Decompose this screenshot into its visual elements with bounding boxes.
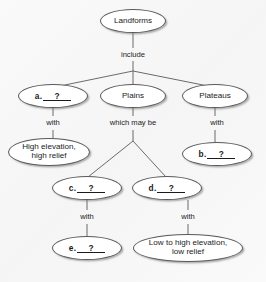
edge-label-with-plateaus: with bbox=[191, 118, 243, 127]
edge-label-with-a: with bbox=[27, 118, 79, 127]
node-blank-d-answer: ? bbox=[157, 184, 185, 193]
node-high-elevation-high-relief-label: High elevation, high relief bbox=[19, 143, 79, 160]
connector-fork2-to-c bbox=[88, 141, 133, 177]
node-blank-c-text: c.? bbox=[69, 183, 105, 193]
node-landforms-label: Landforms bbox=[111, 17, 155, 26]
node-landforms[interactable]: Landforms bbox=[100, 9, 166, 33]
node-blank-e-answer: ? bbox=[77, 244, 105, 253]
node-blank-a-answer: ? bbox=[43, 92, 71, 101]
node-blank-b-answer: ? bbox=[207, 150, 235, 159]
edge-label-with-c-text: with bbox=[80, 212, 94, 221]
edge-label-with-a-text: with bbox=[46, 118, 60, 127]
node-plains[interactable]: Plains bbox=[100, 84, 166, 108]
node-plains-label: Plains bbox=[119, 92, 147, 101]
node-low-to-high-elevation-low-relief[interactable]: Low to high elevation, low relief bbox=[133, 234, 243, 262]
edge-label-with-c: with bbox=[61, 212, 113, 221]
concept-map-canvas: Landforms a.? Plains Plateaus High eleva… bbox=[0, 0, 266, 282]
node-low-to-high-elevation-low-relief-label: Low to high elevation, low relief bbox=[146, 239, 230, 256]
node-blank-c[interactable]: c.? bbox=[52, 176, 122, 200]
node-blank-c-prefix: c. bbox=[69, 183, 76, 193]
edge-label-include-text: include bbox=[121, 50, 145, 59]
node-blank-b[interactable]: b.? bbox=[182, 142, 252, 166]
node-blank-e-prefix: e. bbox=[69, 243, 76, 253]
node-blank-a-prefix: a. bbox=[35, 91, 42, 101]
edge-label-with-plateaus-text: with bbox=[210, 118, 224, 127]
edge-label-with-d: with bbox=[162, 212, 214, 221]
node-blank-b-prefix: b. bbox=[199, 149, 207, 159]
node-blank-a[interactable]: a.? bbox=[18, 84, 88, 108]
edge-label-with-d-text: with bbox=[181, 212, 195, 221]
node-blank-e[interactable]: e.? bbox=[52, 236, 122, 260]
node-blank-b-text: b.? bbox=[199, 149, 236, 159]
node-blank-d[interactable]: d.? bbox=[132, 176, 202, 200]
node-plateaus-label: Plateaus bbox=[196, 92, 234, 101]
node-plateaus[interactable]: Plateaus bbox=[182, 84, 248, 108]
edge-label-which-may-be: which may be bbox=[90, 118, 176, 127]
edge-label-which-may-be-text: which may be bbox=[110, 118, 156, 127]
node-blank-a-text: a.? bbox=[35, 91, 71, 101]
node-blank-d-text: d.? bbox=[149, 183, 186, 193]
node-high-elevation-high-relief[interactable]: High elevation, high relief bbox=[8, 138, 90, 166]
node-blank-d-prefix: d. bbox=[149, 183, 157, 193]
node-blank-c-answer: ? bbox=[77, 184, 105, 193]
edge-label-include: include bbox=[100, 50, 166, 59]
node-blank-e-text: e.? bbox=[69, 243, 105, 253]
connector-fork2-to-d bbox=[133, 141, 166, 177]
